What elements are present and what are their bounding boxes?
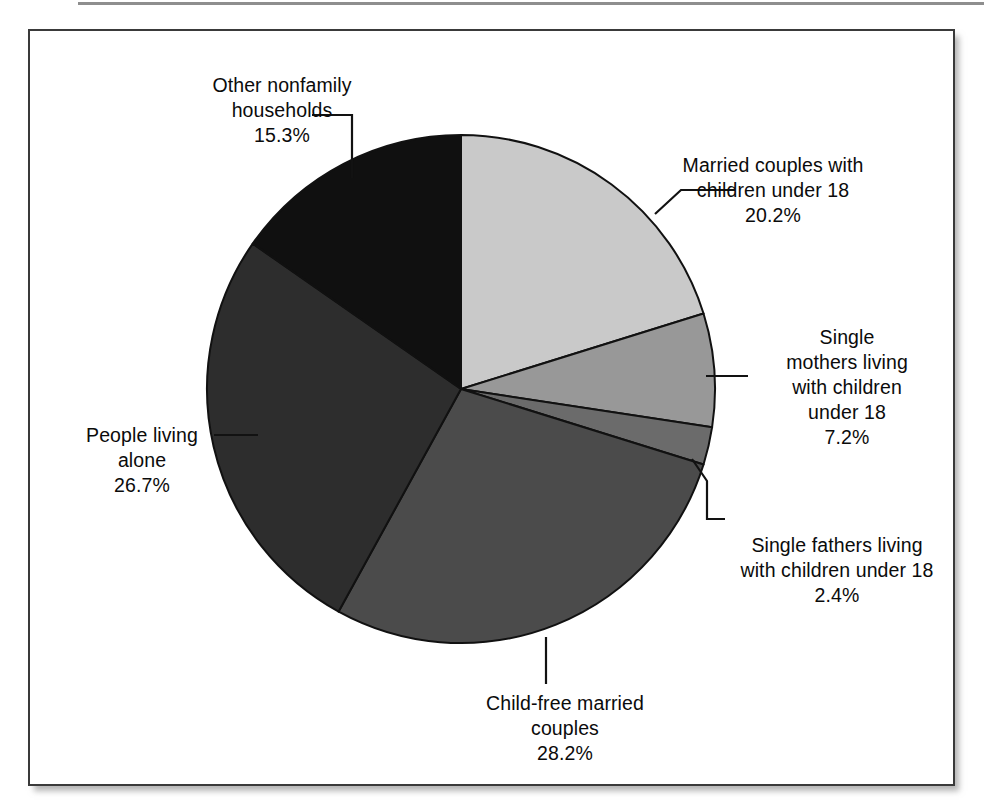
pie-label-text-single-mothers: Single mothers living with children unde… <box>786 326 908 423</box>
pie-label-text-child-free-married: Child-free married couples <box>486 692 644 739</box>
pie-label-text-single-fathers: Single fathers living with children unde… <box>741 534 934 581</box>
pie-label-single-fathers: Single fathers living with children unde… <box>706 508 968 633</box>
pie-label-text-people-living-alone: People living alone <box>86 424 198 471</box>
pie-label-text-other-nonfamily: Other nonfamily households <box>212 74 351 121</box>
pie-label-text-married-with-children: Married couples with children under 18 <box>683 154 864 201</box>
pie-label-percent-child-free-married: 28.2% <box>434 741 696 766</box>
pie-label-percent-married-with-children: 20.2% <box>630 203 916 228</box>
pie-label-other-nonfamily: Other nonfamily households 15.3% <box>148 48 416 173</box>
pie-label-people-living-alone: People living alone 26.7% <box>34 398 250 523</box>
pie-label-percent-single-fathers: 2.4% <box>706 583 968 608</box>
pie-label-married-with-children: Married couples with children under 18 2… <box>630 128 916 253</box>
pie-label-child-free-married: Child-free married couples 28.2% <box>434 666 696 791</box>
pie-label-percent-single-mothers: 7.2% <box>744 425 950 450</box>
pie-label-percent-other-nonfamily: 15.3% <box>148 123 416 148</box>
pie-label-percent-people-living-alone: 26.7% <box>34 473 250 498</box>
pie-chart: Other nonfamily households 15.3% Married… <box>0 0 984 809</box>
figure-page: Other nonfamily households 15.3% Married… <box>0 0 984 809</box>
pie-label-single-mothers: Single mothers living with children unde… <box>744 300 950 475</box>
